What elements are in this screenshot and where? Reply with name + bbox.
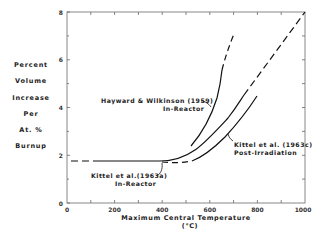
x-tick-label-200: 200	[108, 206, 121, 213]
x-tick-label-600: 600	[204, 206, 217, 213]
x-tick-label-800: 800	[251, 206, 264, 213]
x-tick-label-1000: 1000	[295, 206, 312, 213]
kittel-1963a-dashed-end	[244, 12, 305, 95]
annotation-kittel-c-line1: Kittel et al. (1963c)	[234, 141, 312, 148]
annotation-kittel-a-line2: In-Reactor	[115, 180, 157, 187]
annotation-hayward-line2: In-Reactor	[163, 105, 205, 112]
y-tick-label-0: 0	[59, 200, 63, 207]
leader-kittel-c	[228, 134, 233, 141]
x-tick-label-0: 0	[65, 206, 69, 213]
y-tick-label-2: 2	[59, 152, 63, 159]
annotation-hayward-line1: Hayward & Wilkinson (1959)	[101, 97, 213, 105]
x-axis-title: Maximum Central Temperature	[121, 214, 251, 222]
x-axis-unit: (°C)	[182, 222, 198, 230]
y-tick-label-6: 6	[59, 56, 63, 63]
y-tick-label-8: 8	[59, 9, 63, 16]
hayward-wilkinson-dashed	[222, 34, 234, 70]
chart: 0 2 4 6 8 0 200 400 600 800 1000 Maximum…	[0, 0, 324, 235]
annotation-kittel-a-line1: Kittel et al.(1963a)	[91, 172, 167, 179]
x-tick-label-400: 400	[156, 206, 169, 213]
y-tick-label-4: 4	[59, 104, 63, 111]
annotation-kittel-c-line2: Post-Irradiation	[234, 149, 297, 156]
